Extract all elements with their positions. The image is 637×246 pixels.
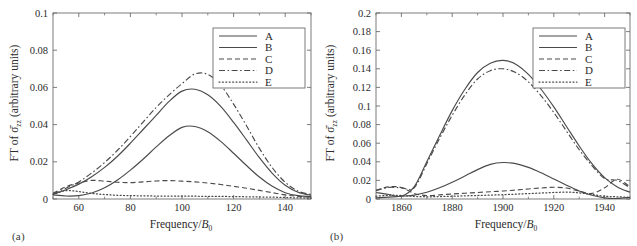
y-tick-label: 0 [366, 194, 371, 205]
x-tick-label: 1920 [543, 202, 564, 213]
legend-label-C: C [265, 53, 272, 65]
x-tick-label: 80 [125, 202, 136, 213]
x-tick-label: 1880 [442, 202, 463, 213]
y-tick-label: 0.14 [353, 63, 372, 74]
x-tick-label: 1940 [594, 202, 615, 213]
x-tick-label: 140 [277, 202, 293, 213]
y-tick-label: 0.08 [353, 119, 371, 130]
x-tick-label: 1860 [391, 202, 412, 213]
legend-label-D: D [585, 64, 593, 76]
x-tick-label: 120 [226, 202, 242, 213]
panel-b-legend: ABCDE [533, 28, 625, 88]
y-tick-label: 0 [43, 194, 48, 205]
x-tick-label: 60 [74, 202, 85, 213]
x-tick-label: 1900 [493, 202, 514, 213]
panel-a-legend: ABCDE [213, 28, 305, 88]
panel-a-curves [53, 73, 311, 198]
y-tick-label: 0.18 [353, 26, 371, 37]
figure-container: 608010012014000.020.040.060.080.1 ABCDE … [0, 0, 637, 246]
legend-label-B: B [265, 41, 272, 53]
panel-b-y-axis-title: FT of σ̄zz (arbitrary units) [324, 44, 339, 161]
panel-b: 1860188019001920194000.020.040.060.080.1… [318, 0, 636, 246]
panel-a-x-axis-title: Frequency/B0 [150, 218, 213, 233]
panel-a-plot: 608010012014000.020.040.060.080.1 ABCDE … [0, 0, 318, 246]
y-tick-label: 0.02 [353, 175, 371, 186]
panel-b-plot: 1860188019001920194000.020.040.060.080.1… [318, 0, 636, 246]
legend-label-C: C [585, 53, 592, 65]
series-line-C [53, 180, 311, 197]
panel-b-x-axis-title: Frequency/B0 [475, 218, 538, 233]
y-tick-label: 0.04 [353, 156, 372, 167]
y-tick-label: 0.1 [358, 101, 371, 112]
y-tick-label: 0.12 [353, 82, 371, 93]
panel-b-caption: (b) [330, 230, 343, 242]
y-tick-label: 0.06 [353, 138, 371, 149]
panel-a-caption: (a) [12, 230, 25, 242]
y-tick-label: 0.1 [35, 8, 48, 19]
y-tick-label: 0.08 [30, 45, 48, 56]
legend-label-B: B [585, 41, 592, 53]
x-tick-label: 100 [174, 202, 190, 213]
y-tick-label: 0.04 [30, 119, 49, 130]
legend-label-A: A [265, 30, 273, 42]
series-line-B [53, 89, 311, 195]
y-tick-label: 0.2 [358, 8, 371, 19]
panel-a-y-axis-title: FT of σ̄zz (arbitrary units) [8, 44, 23, 161]
legend-label-E: E [265, 76, 272, 88]
y-tick-label: 0.02 [30, 156, 48, 167]
panel-a: 608010012014000.020.040.060.080.1 ABCDE … [0, 0, 318, 246]
series-line-A [53, 126, 311, 196]
legend-label-D: D [265, 64, 273, 76]
y-tick-label: 0.06 [30, 82, 48, 93]
legend-label-A: A [585, 30, 593, 42]
y-tick-label: 0.16 [353, 45, 371, 56]
legend-label-E: E [585, 76, 592, 88]
